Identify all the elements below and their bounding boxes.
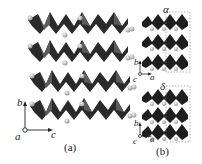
axis-label-a-top: a — [150, 72, 155, 82]
caption-a: (a) — [64, 141, 76, 153]
axis-label-c-bottom: c — [133, 136, 137, 146]
axis-label-a: a — [15, 130, 21, 142]
phase-label-alpha: α — [163, 3, 169, 15]
axis-label-b-bottom: b — [134, 118, 139, 128]
panel-b-top-structure — [142, 12, 190, 72]
axis-label-b-top: b — [134, 57, 139, 67]
axis-label-c: c — [51, 128, 56, 140]
axis-label-b: b — [17, 96, 23, 108]
crystal-structure-figure — [0, 0, 202, 164]
axis-label-c-top: c — [133, 74, 137, 84]
axis-label-a-bottom: a — [150, 134, 155, 144]
phase-label-delta: δ — [160, 80, 165, 92]
caption-b: (b) — [156, 145, 169, 157]
panel-a-structure — [28, 12, 137, 124]
